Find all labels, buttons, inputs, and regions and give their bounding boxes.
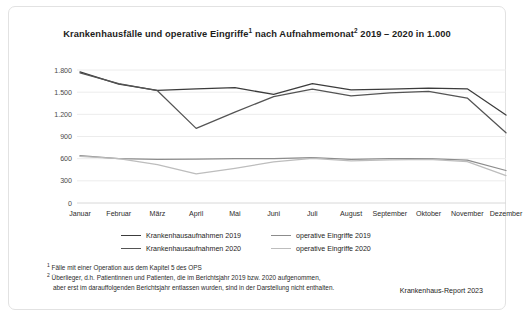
chart-card: Krankenhausfälle und operative Eingriffe… xyxy=(8,6,506,310)
footnote-1-text: Fälle mit einer Operation aus dem Kapite… xyxy=(50,264,202,271)
legend-line-swatch-icon xyxy=(121,248,141,249)
legend-item-label: Krankenhausaufnahmen 2020 xyxy=(146,245,241,253)
legend-line-swatch-icon xyxy=(271,235,291,236)
legend-line-swatch-icon xyxy=(121,235,141,236)
source-credit: Krankenhaus-Report 2023 xyxy=(400,287,483,295)
x-axis-tick-label: Oktober xyxy=(416,210,442,218)
y-axis-tick-labels: 03006009001.2001.5001.800 xyxy=(54,67,72,208)
x-axis-tick-label: Mai xyxy=(229,210,241,218)
y-axis-tick-label: 0 xyxy=(68,200,72,208)
y-axis-tick-label: 900 xyxy=(60,133,72,141)
y-axis-tick-label: 1.200 xyxy=(54,111,72,119)
x-axis-tick-label: April xyxy=(189,210,204,218)
footnote-2: 2 Überlieger, d.h. Patientinnen und Pati… xyxy=(47,273,467,283)
y-axis-tick-label: 600 xyxy=(60,155,72,163)
series-lines xyxy=(80,72,506,176)
chart-legend: Krankenhausaufnahmen 2019 operative Eing… xyxy=(121,229,421,255)
y-axis-tick-label: 1.500 xyxy=(54,89,72,97)
x-axis-tick-label: Dezember xyxy=(490,210,523,218)
y-axis-tick-label: 1.800 xyxy=(54,67,72,75)
y-axis-tick-label: 300 xyxy=(60,177,72,185)
x-axis-tick-label: September xyxy=(372,210,407,218)
x-axis-tick-label: Februar xyxy=(106,210,131,218)
x-axis-tick-label: Juli xyxy=(307,210,318,218)
footnote-2-text: Überlieger, d.h. Patientinnen und Patien… xyxy=(50,274,321,281)
legend-item-operative-eingriffe-2019[interactable]: operative Eingriffe 2019 xyxy=(271,232,421,240)
series-line xyxy=(80,73,506,133)
legend-item-label: operative Eingriffe 2020 xyxy=(296,245,371,253)
x-axis-tick-label: Januar xyxy=(69,210,91,218)
x-axis-tick-labels: JanuarFebruarMärzAprilMaiJuniJuliAugustS… xyxy=(69,210,523,218)
x-axis-tick-label: November xyxy=(451,210,484,218)
legend-item-operative-eingriffe-2020[interactable]: operative Eingriffe 2020 xyxy=(271,245,421,253)
legend-item-krankenhausaufnahmen-2020[interactable]: Krankenhausaufnahmen 2020 xyxy=(121,245,271,253)
footnote-1: 1 Fälle mit einer Operation aus dem Kapi… xyxy=(47,263,467,273)
x-axis-tick-label: März xyxy=(150,210,166,218)
legend-item-label: operative Eingriffe 2019 xyxy=(296,232,371,240)
legend-line-swatch-icon xyxy=(271,248,291,249)
legend-item-label: Krankenhausaufnahmen 2019 xyxy=(146,232,241,240)
legend-item-krankenhausaufnahmen-2019[interactable]: Krankenhausaufnahmen 2019 xyxy=(121,232,271,240)
x-axis-tick-label: Juni xyxy=(267,210,280,218)
x-axis-tick-label: August xyxy=(340,210,362,218)
